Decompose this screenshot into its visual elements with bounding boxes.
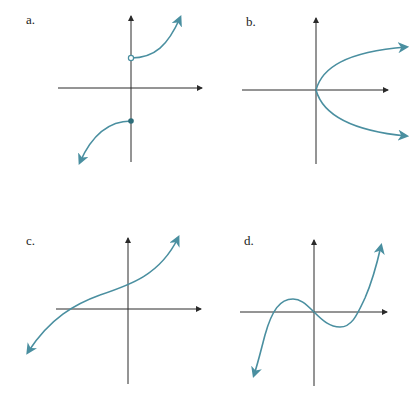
- curve-right: [314, 246, 381, 327]
- curve-upper: [131, 18, 180, 58]
- curve-right: [100, 238, 178, 295]
- closed-dot: [128, 118, 134, 124]
- curve-left: [28, 295, 100, 352]
- open-circle: [128, 55, 133, 60]
- graph-panel-b: b.: [210, 0, 419, 200]
- graph-panel-a: a.: [0, 0, 210, 200]
- curve-lower-branch: [316, 90, 406, 136]
- graph-d: [210, 200, 419, 401]
- curve-lower: [80, 121, 131, 162]
- graph-c: [0, 200, 210, 401]
- graph-panel-c: c.: [0, 200, 210, 400]
- graph-a: [0, 0, 210, 200]
- curve-left: [254, 299, 314, 375]
- graph-panel-d: d.: [210, 200, 419, 400]
- graph-b: [210, 0, 419, 200]
- curve-upper-branch: [316, 47, 406, 90]
